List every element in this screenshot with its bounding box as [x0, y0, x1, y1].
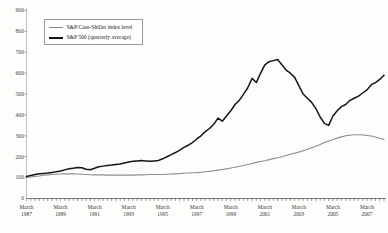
- legend-item-sp500: S&P 500 (quarterly average): [49, 33, 138, 43]
- y-axis-label-800: 800: [2, 28, 24, 34]
- y-axis-label-600: 600: [2, 70, 24, 76]
- y-axis-label-0: 0: [2, 195, 24, 201]
- legend-label-sp500: S&P 500 (quarterly average): [67, 34, 131, 41]
- y-axis-label-900: 900: [2, 7, 24, 13]
- legend-item-case-shiller: S&P/Case-Shiller index level: [49, 23, 138, 33]
- y-axis-tick-labels: 1002003004005006007008009000: [0, 0, 24, 233]
- y-axis-label-400: 400: [2, 112, 24, 118]
- y-axis-label-300: 300: [2, 133, 24, 139]
- y-axis-label-200: 200: [2, 154, 24, 160]
- series-line-case-shiller: [27, 135, 385, 178]
- chart-legend: S&P/Case-Shiller index level S&P 500 (qu…: [44, 19, 143, 45]
- legend-swatch-gray-line-icon: [49, 27, 63, 28]
- legend-label-case-shiller: S&P/Case-Shiller index level: [67, 24, 133, 31]
- y-axis-label-500: 500: [2, 91, 24, 97]
- legend-swatch-black-line-icon: [49, 37, 63, 39]
- y-axis-label-100: 100: [2, 174, 24, 180]
- y-axis-label-700: 700: [2, 49, 24, 55]
- chart-container: 1002003004005006007008009000 March1987Ma…: [0, 0, 388, 233]
- series-line-sp500: [27, 60, 385, 177]
